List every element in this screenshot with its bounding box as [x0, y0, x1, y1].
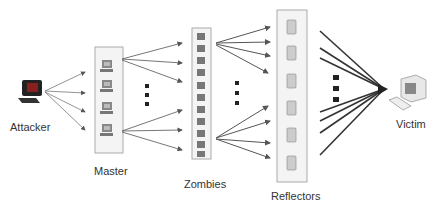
reflectors-to-victim-lines [320, 31, 384, 155]
diagram-canvas [0, 0, 445, 208]
ellipsis-master [145, 84, 149, 106]
master-to-zombies-arrows [122, 43, 182, 150]
zombies-to-reflectors-arrows [216, 27, 270, 158]
master-label: Master [94, 165, 128, 177]
zombies-label: Zombies [184, 178, 226, 190]
attacker-label: Attacker [10, 121, 50, 133]
reflectors-label: Reflectors [271, 190, 321, 202]
ellipsis-reflectors [333, 75, 339, 102]
ellipsis-zombies [235, 81, 239, 105]
attacker-computer-icon [18, 80, 42, 103]
attacker-to-master-arrows [45, 72, 85, 130]
victim-label: Victim [396, 118, 426, 130]
victim-computer-icon [389, 75, 426, 110]
victim-arrowhead [378, 84, 388, 95]
